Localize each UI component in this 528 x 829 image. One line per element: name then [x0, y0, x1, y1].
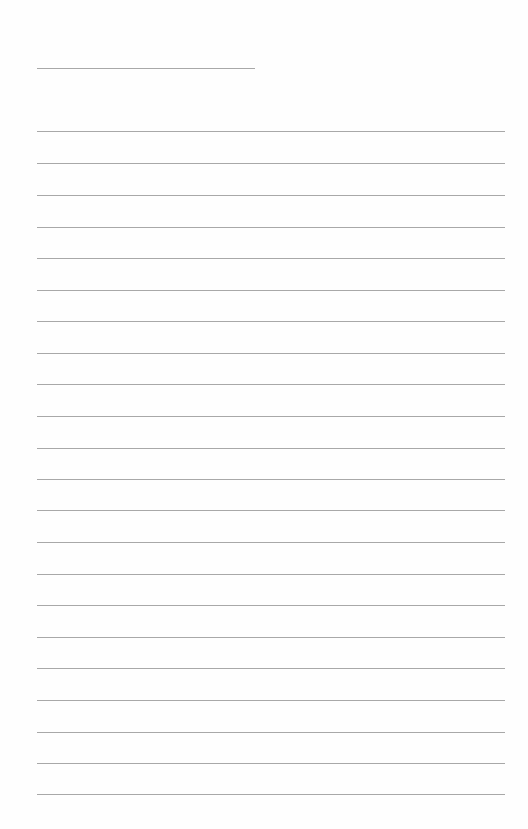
writing-line [37, 510, 505, 511]
writing-line [37, 763, 505, 764]
writing-line [37, 290, 505, 291]
writing-line [37, 732, 505, 733]
writing-line [37, 794, 505, 795]
writing-line [37, 668, 505, 669]
writing-line [37, 605, 505, 606]
writing-line [37, 258, 505, 259]
writing-line [37, 700, 505, 701]
writing-lines [0, 0, 528, 829]
writing-line [37, 195, 505, 196]
writing-line [37, 637, 505, 638]
writing-line [37, 321, 505, 322]
writing-line [37, 384, 505, 385]
writing-line [37, 574, 505, 575]
writing-line [37, 163, 505, 164]
writing-line [37, 227, 505, 228]
writing-line [37, 448, 505, 449]
writing-line [37, 542, 505, 543]
writing-line [37, 353, 505, 354]
writing-line [37, 479, 505, 480]
writing-line [37, 131, 505, 132]
lined-page [0, 0, 528, 829]
writing-line [37, 416, 505, 417]
